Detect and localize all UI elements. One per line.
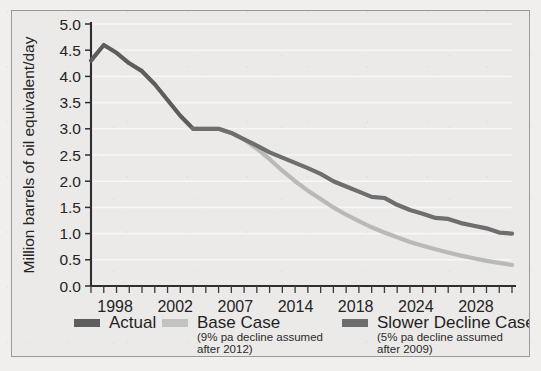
x-tick-label: 2014 [278,298,314,315]
x-tick-label: 2018 [338,298,374,315]
chart-page: 0.00.51.01.52.02.53.03.54.04.55.0 199820… [0,0,541,371]
y-tick-label: 5.0 [59,16,81,33]
y-gridlines [91,24,512,260]
y-tick-label: 1.0 [59,225,81,242]
legend-label-0: Actual [109,313,156,332]
series-line-base-case [193,129,512,265]
legend-swatch-0 [74,319,100,327]
chart-legend: ActualBase Case(9% pa decline assumedaft… [74,313,529,355]
legend-label-2: Slower Decline Case [377,313,529,332]
figure-frame: 0.00.51.01.52.02.53.03.54.04.55.0 199820… [11,10,530,357]
x-tick-label: 2002 [157,298,193,315]
series-line-actual [91,45,193,129]
y-tick-label: 0.5 [59,251,81,268]
y-tick-label: 0.0 [59,278,81,295]
legend-label-1: Base Case [197,313,280,332]
chart-svg: 0.00.51.01.52.02.53.03.54.04.55.0 199820… [12,11,529,356]
legend-note-line1-1: (9% pa decline assumed [197,331,323,343]
legend-note-line2-1: after 2012) [197,343,253,355]
y-axis-title: Million barrels of oil equivalent/day [20,36,37,273]
legend-note-line1-2: (5% pa decline assumed [377,331,503,343]
legend-swatch-2 [342,319,368,327]
y-axis: 0.00.51.01.52.02.53.03.54.04.55.0 [59,16,91,295]
y-tick-label: 3.5 [59,94,81,111]
y-tick-label: 2.0 [59,173,81,190]
y-tick-label: 2.5 [59,147,81,164]
y-tick-label: 3.0 [59,120,81,137]
legend-swatch-1 [162,319,188,327]
x-axis: 1998200220072014201820242028 [91,286,516,315]
legend-note-line2-2: after 2009) [377,343,433,355]
y-axis-title-text: Million barrels of oil equivalent/day [20,36,37,273]
y-tick-label: 4.5 [59,42,81,59]
y-tick-label: 1.5 [59,199,81,216]
line-chart-figure: 0.00.51.01.52.02.53.03.54.04.55.0 199820… [12,11,529,356]
y-tick-label: 4.0 [59,68,81,85]
